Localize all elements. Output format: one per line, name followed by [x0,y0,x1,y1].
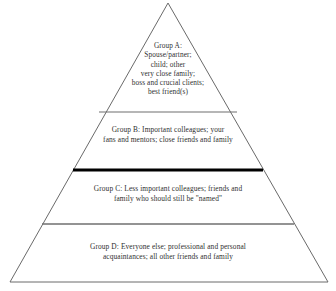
tier-d-line-2: acquaintances; all other friends and fam… [14,252,322,262]
tier-a-line-2: Spouse/partner; [78,50,258,59]
tier-label-group-c: Group C: Less important colleagues; frie… [28,184,308,204]
tier-d-line-1: Group D: Everyone else; professional and… [14,242,322,252]
tier-label-group-d: Group D: Everyone else; professional and… [14,242,322,262]
pyramid-diagram: Group A: Spouse/partner; child; other ve… [0,0,336,291]
tier-label-group-b: Group B: Important colleagues; your fans… [48,125,288,145]
tier-label-group-a: Group A: Spouse/partner; child; other ve… [78,41,258,97]
tier-a-line-1: Group A: [78,41,258,50]
tier-a-line-3: child; other [78,60,258,69]
tier-b-line-2: fans and mentors; close friends and fami… [48,135,288,145]
tier-c-line-2: family who should still be "named" [28,194,308,204]
tier-a-line-4: very close family; [78,69,258,78]
tier-a-line-6: best friend(s) [78,87,258,96]
tier-c-line-1: Group C: Less important colleagues; frie… [28,184,308,194]
tier-a-line-5: boss and crucial clients; [78,78,258,87]
tier-b-line-1: Group B: Important colleagues; your [48,125,288,135]
